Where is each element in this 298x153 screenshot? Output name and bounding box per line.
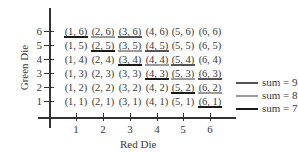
outcome-cell: (1, 3) [62,68,90,79]
outcome-label: (5, 6) [172,26,195,37]
outcome-label: (5, 3) [172,68,195,79]
sum-8-underline [198,92,222,94]
outcome-cell: (5, 5) [169,40,197,51]
outcome-label: (6, 1) [199,96,222,107]
y-tick [44,87,54,88]
x-tick-label: 3 [123,124,137,135]
outcome-cell: (3, 3) [116,68,144,79]
y-tick [44,31,54,32]
outcome-cell: (2, 4) [89,54,117,65]
outcome-cell: (3, 4) [116,54,144,65]
outcome-cell: (1, 6) [62,26,90,37]
x-tick [210,113,211,121]
outcome-label: (5, 4) [172,54,195,65]
y-tick [44,59,54,60]
outcome-label: (3, 5) [119,40,142,51]
outcome-label: (6, 5) [199,40,222,51]
legend-swatch [236,95,258,97]
outcome-label: (3, 1) [119,96,142,107]
outcome-cell: (5, 4) [169,54,197,65]
outcome-cell: (6, 1) [196,96,224,107]
y-tick-label: 5 [32,40,42,51]
x-tick [103,113,104,121]
y-tick-label: 4 [32,54,42,65]
outcome-label: (6, 3) [199,68,222,79]
x-axis-title: Red Die [120,139,156,150]
outcome-label: (5, 2) [172,82,195,93]
outcome-cell: (3, 1) [116,96,144,107]
legend-label: sum = 9 [262,77,298,88]
outcome-cell: (4, 3) [143,68,171,79]
outcome-cell: (5, 2) [169,82,197,93]
outcome-cell: (4, 5) [143,40,171,51]
outcome-cell: (2, 6) [89,26,117,37]
outcome-label: (4, 5) [146,40,169,51]
sum-8-underline [145,64,169,66]
sum-7-underline [171,92,195,94]
y-tick [44,45,54,46]
sum-8-underline [91,36,115,38]
outcome-label: (1, 2) [65,82,88,93]
outcome-cell: (1, 2) [62,82,90,93]
y-axis-title: Green Die [19,38,30,98]
outcome-cell: (1, 1) [62,96,90,107]
legend-swatch [236,82,258,84]
x-tick [183,113,184,121]
outcome-label: (4, 1) [146,96,169,107]
outcome-label: (2, 5) [92,40,115,51]
sum-7-underline [64,36,88,38]
outcome-label: (2, 6) [92,26,115,37]
sum-8-underline [171,78,195,80]
outcome-cell: (5, 3) [169,68,197,79]
outcome-cell: (4, 1) [143,96,171,107]
outcome-cell: (2, 5) [89,40,117,51]
outcome-label: (4, 4) [146,54,169,65]
legend-label: sum = 8 [262,90,298,101]
outcome-cell: (2, 2) [89,82,117,93]
outcome-label: (6, 4) [199,54,222,65]
sum-7-underline [145,78,169,80]
outcome-label: (3, 4) [119,54,142,65]
outcome-cell: (5, 6) [169,26,197,37]
legend-label: sum = 7 [262,103,298,114]
y-tick-label: 6 [32,26,42,37]
outcome-label: (5, 1) [172,96,195,107]
outcome-label: (1, 1) [65,96,88,107]
outcome-cell: (6, 4) [196,54,224,65]
outcome-label: (4, 6) [146,26,169,37]
outcome-label: (2, 2) [92,82,115,93]
outcome-label: (1, 6) [65,26,88,37]
y-axis [49,8,51,128]
x-axis [38,117,236,119]
outcome-cell: (6, 3) [196,68,224,79]
outcome-cell: (5, 1) [169,96,197,107]
sum-7-underline [198,106,222,108]
y-tick-label: 1 [32,96,42,107]
sum-7-underline [91,50,115,52]
x-tick [76,113,77,121]
y-tick [44,101,54,102]
outcome-label: (3, 2) [119,82,142,93]
sum-7-underline [118,64,142,66]
sum-9-underline [118,36,142,38]
outcome-label: (6, 2) [199,82,222,93]
sum-9-underline [145,50,169,52]
outcome-label: (1, 3) [65,68,88,79]
outcome-label: (3, 6) [119,26,142,37]
y-tick [44,73,54,74]
sum-9-underline [198,78,222,80]
x-tick-label: 5 [176,124,190,135]
outcome-label: (2, 4) [92,54,115,65]
outcome-label: (2, 1) [92,96,115,107]
sum-9-underline [171,64,195,66]
outcome-cell: (4, 4) [143,54,171,65]
x-tick [157,113,158,121]
y-tick-label: 2 [32,82,42,93]
outcome-cell: (4, 6) [143,26,171,37]
x-tick-label: 6 [203,124,217,135]
x-tick [130,113,131,121]
outcome-cell: (1, 4) [62,54,90,65]
legend-swatch [236,108,258,110]
outcome-label: (1, 4) [65,54,88,65]
outcome-cell: (6, 2) [196,82,224,93]
